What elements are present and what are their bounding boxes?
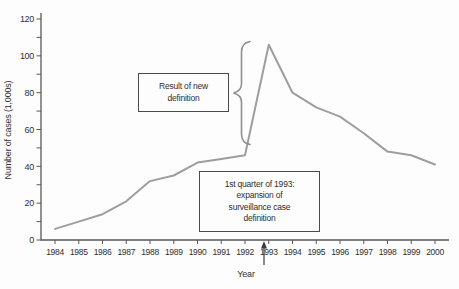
y-tick-label: 100 xyxy=(20,51,34,61)
q1-1993-arrow-head xyxy=(261,241,267,249)
y-tick-label: 60 xyxy=(25,125,35,135)
x-tick-label: 1989 xyxy=(165,247,183,257)
x-tick-label: 1986 xyxy=(94,247,112,257)
annotation-first-quarter-1993: 1st quarter of 1993: expansion of survei… xyxy=(199,171,320,232)
x-tick-label: 1991 xyxy=(212,247,230,257)
x-tick-label: 1999 xyxy=(402,247,420,257)
x-tick-label: 1995 xyxy=(307,247,325,257)
plot-area: 0204060801001201984198519861987198819891… xyxy=(0,0,459,289)
y-tick-label: 0 xyxy=(29,235,34,245)
annotation-result-of-new-definition: Result of new definition xyxy=(138,73,229,112)
x-tick-label: 1988 xyxy=(141,247,159,257)
y-axis-title: Number of cases (1,000s) xyxy=(3,50,15,210)
y-tick-label: 80 xyxy=(25,88,35,98)
curly-brace xyxy=(234,42,251,145)
x-tick-label: 1987 xyxy=(117,247,135,257)
annotation-line: expansion of xyxy=(200,190,319,202)
x-tick-label: 1985 xyxy=(70,247,88,257)
y-tick-label: 120 xyxy=(20,14,34,24)
x-tick-label: 1996 xyxy=(331,247,349,257)
x-tick-label: 1998 xyxy=(379,247,397,257)
x-axis-title: Year xyxy=(225,269,267,279)
x-tick-label: 1994 xyxy=(284,247,302,257)
x-tick-label: 1990 xyxy=(189,247,207,257)
chart-figure: 0204060801001201984198519861987198819891… xyxy=(0,0,459,289)
annotation-line: surveillance case xyxy=(200,202,319,214)
annotation-line: definition xyxy=(200,213,319,225)
x-tick-label: 1984 xyxy=(46,247,64,257)
y-tick-label: 20 xyxy=(25,198,35,208)
x-tick-label: 1992 xyxy=(236,247,254,257)
y-tick-label: 40 xyxy=(25,162,35,172)
x-tick-label: 1997 xyxy=(355,247,373,257)
annotation-line: definition xyxy=(139,93,228,105)
annotation-line: Result of new xyxy=(139,81,228,93)
annotation-line: 1st quarter of 1993: xyxy=(200,179,319,191)
x-tick-label: 2000 xyxy=(426,247,444,257)
